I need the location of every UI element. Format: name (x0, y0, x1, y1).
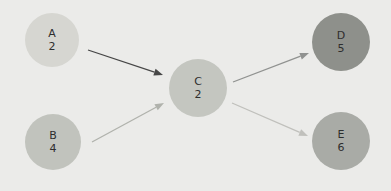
node-e-value: 6 (338, 141, 345, 154)
arrowhead-c-d (299, 53, 309, 60)
node-a: A 2 (25, 13, 79, 67)
node-d-value: 5 (338, 42, 345, 55)
arrowhead-b-c (154, 103, 164, 110)
node-c: C 2 (169, 59, 227, 117)
node-e-label: E (338, 128, 345, 141)
node-c-label: C (194, 75, 202, 88)
graph-canvas: A 2 B 4 C 2 D 5 E 6 (0, 0, 391, 191)
edge-c-e (232, 103, 300, 132)
node-a-value: 2 (49, 40, 56, 53)
edge-b-c (92, 107, 156, 142)
node-a-label: A (48, 27, 56, 40)
edge-c-d (233, 56, 301, 82)
node-d-label: D (337, 29, 345, 42)
arrowhead-a-c (153, 69, 163, 76)
node-d: D 5 (312, 13, 370, 71)
node-b-value: 4 (50, 142, 57, 155)
node-b: B 4 (25, 114, 81, 170)
node-b-label: B (49, 129, 57, 142)
node-c-value: 2 (195, 88, 202, 101)
edge-a-c (88, 50, 154, 72)
arrowhead-c-e (298, 129, 308, 136)
node-e: E 6 (312, 112, 370, 170)
